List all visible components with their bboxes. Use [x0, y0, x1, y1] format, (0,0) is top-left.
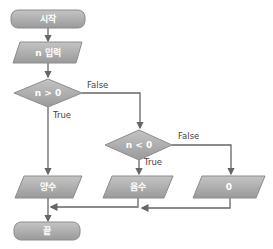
- decision-n-gt-0: n > 0: [14, 79, 82, 107]
- cond2-false-label: False: [178, 131, 199, 141]
- flowchart-canvas: 시작 n 입력 n > 0 False True n < 0 False Tru…: [0, 0, 273, 249]
- cond1-false-label: False: [87, 80, 108, 90]
- positive-label: 양수: [40, 181, 56, 192]
- negative-label: 음수: [130, 182, 146, 192]
- positive-io: 양수: [15, 176, 82, 198]
- cond1-label: n > 0: [35, 88, 61, 98]
- cond2-label: n < 0: [126, 140, 152, 150]
- negative-io: 음수: [103, 176, 173, 198]
- zero-label: 0: [226, 182, 232, 192]
- input-io: n 입력: [13, 42, 82, 63]
- cond1-true-label: True: [52, 110, 71, 120]
- cond2-true-label: True: [143, 157, 162, 167]
- start-label: 시작: [40, 14, 57, 24]
- start-terminal: 시작: [11, 10, 85, 28]
- zero-io: 0: [193, 176, 265, 198]
- end-terminal: 끝: [14, 222, 80, 240]
- decision-n-lt-0: n < 0: [105, 130, 172, 160]
- input-label: n 입력: [35, 47, 61, 58]
- end-label: 끝: [43, 226, 51, 236]
